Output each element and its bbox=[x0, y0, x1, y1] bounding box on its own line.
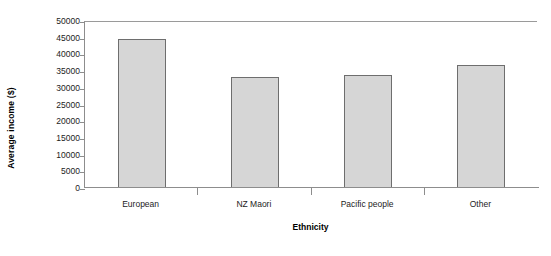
y-axis-tick-mark bbox=[80, 22, 85, 23]
y-axis-tick-label: 45000 bbox=[24, 33, 80, 42]
y-axis-title: Average income ($) bbox=[0, 0, 22, 256]
y-axis-tick-label: 20000 bbox=[24, 117, 80, 126]
y-axis-tick-label: 15000 bbox=[24, 133, 80, 142]
y-axis-tick-label: 0 bbox=[24, 184, 80, 193]
y-axis-tick-label: 50000 bbox=[24, 17, 80, 26]
x-axis-category-label: NZ Maori bbox=[197, 199, 310, 209]
y-axis-tick-mark bbox=[80, 39, 85, 40]
x-axis-category-label: Pacific people bbox=[311, 199, 424, 209]
x-axis-separator-tick bbox=[424, 188, 425, 195]
bar bbox=[344, 75, 392, 188]
y-axis-tick-mark bbox=[80, 122, 85, 123]
y-axis-tick-mark bbox=[80, 72, 85, 73]
y-axis-tick-label: 10000 bbox=[24, 150, 80, 159]
y-axis-tick-mark bbox=[80, 172, 85, 173]
x-axis-category-label: Other bbox=[424, 199, 537, 209]
bar bbox=[118, 39, 166, 188]
plot-area bbox=[84, 21, 537, 188]
y-axis-tick-label: 5000 bbox=[24, 167, 80, 176]
x-axis-category-label: European bbox=[84, 199, 197, 209]
x-axis-separator-tick bbox=[197, 188, 198, 195]
y-axis-tick-mark bbox=[80, 156, 85, 157]
y-axis-tick-mark bbox=[80, 89, 85, 90]
y-axis-tick-label: 30000 bbox=[24, 83, 80, 92]
bar bbox=[457, 65, 505, 188]
x-axis-separator-tick bbox=[311, 188, 312, 195]
x-axis-title: Ethnicity bbox=[84, 222, 537, 232]
y-axis-tick-label: 25000 bbox=[24, 100, 80, 109]
x-axis-baseline bbox=[84, 187, 539, 188]
y-axis-tick-mark bbox=[80, 106, 85, 107]
y-axis-tick-label: 40000 bbox=[24, 50, 80, 59]
y-axis-tick-mark bbox=[80, 55, 85, 56]
y-axis-tick-mark bbox=[80, 189, 85, 190]
bar bbox=[231, 77, 279, 188]
y-axis-tick-label: 35000 bbox=[24, 67, 80, 76]
y-axis-tick-labels: 0500010000150002000025000300003500040000… bbox=[24, 14, 80, 188]
bar-chart-figure: Average income ($) 050001000015000200002… bbox=[0, 0, 551, 256]
y-axis-tick-mark bbox=[80, 139, 85, 140]
